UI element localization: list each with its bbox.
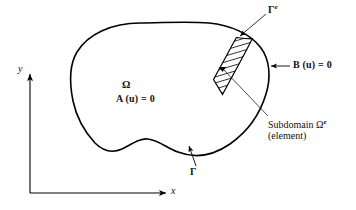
domain-diagram-figure: Ω A (u) = 0 Γe B (u) = 0 Subdomain Ωe (e… <box>0 0 356 210</box>
diagram-canvas <box>0 0 356 210</box>
element-boundary-label: Γe <box>268 4 278 15</box>
governing-equation-label: A (u) = 0 <box>116 94 155 104</box>
outer-boundary-label: Γ <box>190 167 197 177</box>
subdomain-sublabel: (element) <box>268 131 306 141</box>
element-boundary-superscript: e <box>275 3 278 11</box>
x-axis-label: x <box>171 186 175 196</box>
subdomain-caption-text: Subdomain Ω <box>268 119 324 130</box>
boundary-condition-label: B (u) = 0 <box>293 60 332 70</box>
gamma-e-leader-line <box>240 14 266 36</box>
subdomain-caption-superscript: e <box>324 118 327 126</box>
y-axis-label: y <box>18 64 22 74</box>
domain-symbol-label: Ω <box>122 80 130 91</box>
subdomain-caption-label: Subdomain Ωe <box>268 119 327 130</box>
